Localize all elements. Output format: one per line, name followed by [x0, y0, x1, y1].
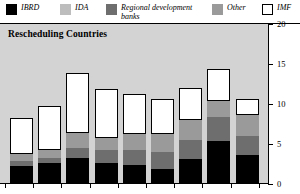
- bar-1-segment-ibrd: [10, 166, 33, 184]
- bar-6[interactable]: [151, 99, 174, 184]
- legend-label-3: Other: [227, 3, 246, 13]
- bar-3-segment-other: [66, 133, 89, 148]
- bar-6-segment-imf: [151, 99, 174, 134]
- legend-swatch-ibrd: [6, 4, 17, 15]
- bar-2[interactable]: [38, 106, 61, 184]
- legend-swatch-other: [212, 4, 223, 15]
- y-axis-tick-0: [268, 184, 273, 185]
- legend-item-0[interactable]: IBRD: [6, 3, 52, 21]
- chart-legend: IBRDIDARegional development banksOtherIM…: [0, 0, 300, 24]
- x-axis-tick-3: [90, 184, 91, 188]
- bar-6-segment-other: [151, 134, 174, 152]
- bar-2-segment-ibrd: [38, 163, 61, 184]
- bar-7-segment-ibrd: [179, 159, 202, 184]
- legend-swatch-ida: [60, 4, 71, 15]
- y-axis-tick-15: [268, 64, 273, 65]
- bar-9-segment-ibrd: [236, 155, 259, 184]
- plot-wrapper: Rescheduling Countries 05101520: [0, 24, 300, 194]
- legend-item-3[interactable]: Other: [212, 3, 258, 21]
- bar-8-segment-ibrd: [207, 141, 230, 184]
- plot-area: [0, 24, 268, 184]
- bar-2-segment-other: [38, 150, 61, 158]
- legend-label-1: IDA: [75, 3, 88, 13]
- legend-label-2: Regional development banks: [121, 3, 192, 21]
- bar-9-segment-imf: [236, 99, 259, 115]
- bar-3-segment-regional-development-banks: [66, 148, 89, 158]
- bar-5-segment-regional-development-banks: [123, 150, 146, 165]
- x-axis-tick-4: [118, 184, 119, 188]
- bar-3-segment-ibrd: [66, 158, 89, 184]
- legend-label-0: IBRD: [21, 3, 39, 13]
- y-axis-tick-10: [268, 104, 273, 105]
- bar-8-segment-imf: [207, 69, 230, 101]
- bar-7-segment-regional-development-banks: [179, 140, 202, 159]
- y-axis-tick-label-10: 10: [277, 100, 286, 109]
- legend-item-2[interactable]: Regional development banks: [106, 3, 206, 21]
- bar-4[interactable]: [95, 89, 118, 184]
- x-axis-baseline: [0, 183, 269, 184]
- legend-item-1[interactable]: IDA: [60, 3, 104, 21]
- x-axis-tick-2: [61, 184, 62, 188]
- bar-9-segment-other: [236, 115, 259, 136]
- bar-8[interactable]: [207, 69, 230, 184]
- legend-swatch-regional: [106, 4, 117, 15]
- x-axis-tick-9: [259, 184, 260, 188]
- y-axis-tick-5: [268, 144, 273, 145]
- bars-container: [0, 24, 268, 184]
- bar-5-segment-imf: [123, 94, 146, 134]
- y-axis-tick-label-0: 0: [277, 180, 281, 189]
- bar-9[interactable]: [236, 99, 259, 184]
- bar-1-segment-other: [10, 154, 33, 161]
- legend-swatch-imf: [262, 4, 273, 15]
- bar-9-segment-regional-development-banks: [236, 136, 259, 155]
- bar-4-segment-ibrd: [95, 163, 118, 184]
- bar-6-segment-ibrd: [151, 169, 174, 184]
- bar-8-segment-other: [207, 101, 230, 117]
- y-axis-tick-label-15: 15: [277, 60, 286, 69]
- bar-7[interactable]: [179, 88, 202, 184]
- stacked-bar-chart-figure: IBRDIDARegional development banksOtherIM…: [0, 0, 300, 194]
- x-axis-tick-1: [33, 184, 34, 188]
- y-axis-tick-20: [268, 24, 273, 25]
- x-axis-tick-8: [231, 184, 232, 188]
- bar-6-segment-regional-development-banks: [151, 152, 174, 169]
- y-axis-tick-label-20: 20: [277, 20, 286, 29]
- y-axis-tick-label-5: 5: [277, 140, 281, 149]
- bar-3-segment-imf: [66, 73, 89, 133]
- legend-label-4: IMF: [277, 3, 291, 13]
- bar-3[interactable]: [66, 73, 89, 184]
- bar-8-segment-regional-development-banks: [207, 117, 230, 141]
- x-axis-tick-6: [174, 184, 175, 188]
- bar-1[interactable]: [10, 118, 33, 184]
- bar-7-segment-imf: [179, 88, 202, 120]
- page-title: Rescheduling Countries: [8, 29, 107, 39]
- bar-4-segment-other: [95, 138, 118, 151]
- x-axis-tick-7: [202, 184, 203, 188]
- bar-2-segment-imf: [38, 106, 61, 149]
- bar-5-segment-other: [123, 134, 146, 149]
- bar-1-segment-imf: [10, 118, 33, 154]
- x-axis-tick-0: [5, 184, 6, 188]
- bar-4-segment-imf: [95, 89, 118, 138]
- x-axis-tick-5: [146, 184, 147, 188]
- bar-5-segment-ibrd: [123, 165, 146, 184]
- bar-5[interactable]: [123, 94, 146, 184]
- bar-4-segment-regional-development-banks: [95, 150, 118, 163]
- bar-7-segment-other: [179, 120, 202, 140]
